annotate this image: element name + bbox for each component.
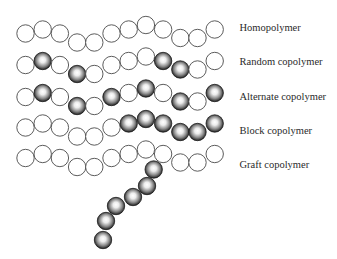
monomer-a-circle — [17, 119, 34, 136]
monomer-a-circle — [103, 149, 120, 166]
monomer-a-circle — [86, 65, 103, 82]
monomer-a-circle — [154, 145, 171, 162]
monomer-a-circle — [68, 34, 85, 51]
monomer-a-circle — [103, 56, 120, 73]
monomer-b-sphere — [120, 115, 137, 132]
monomer-b-sphere — [154, 115, 171, 132]
monomer-b-sphere — [34, 84, 51, 101]
monomer-b-sphere — [172, 93, 189, 110]
monomer-a-circle — [120, 145, 137, 162]
monomer-a-circle — [51, 25, 68, 42]
monomer-a-circle — [172, 29, 189, 46]
monomer-a-circle — [189, 154, 206, 171]
monomer-a-circle — [120, 84, 137, 101]
monomer-a-circle — [189, 93, 206, 110]
label-alternate-copolymer: Alternate copolymer — [240, 91, 327, 102]
polymer-chain-row — [17, 110, 224, 145]
monomer-b-sphere — [137, 110, 154, 127]
polymer-chain-row — [17, 80, 224, 115]
monomer-b-sphere — [206, 84, 223, 101]
graft-monomer-sphere — [94, 231, 111, 248]
monomer-a-circle — [34, 21, 51, 38]
label-graft-copolymer: Graft copolymer — [240, 159, 310, 170]
monomer-a-circle — [86, 158, 103, 175]
monomer-b-sphere — [137, 80, 154, 97]
monomer-a-circle — [120, 52, 137, 69]
monomer-a-circle — [137, 48, 154, 65]
monomer-a-circle — [17, 25, 34, 42]
row-labels: Homopolymer Random copolymer Alternate c… — [240, 22, 327, 170]
graft-monomer-sphere — [138, 177, 155, 194]
monomer-a-circle — [154, 21, 171, 38]
label-homopolymer: Homopolymer — [240, 22, 302, 33]
monomer-a-circle — [103, 119, 120, 136]
graft-monomer-sphere — [145, 161, 162, 178]
monomer-a-circle — [17, 149, 34, 166]
monomer-a-circle — [51, 119, 68, 136]
monomer-a-circle — [86, 34, 103, 51]
monomer-a-circle — [172, 154, 189, 171]
polymer-chain-row — [17, 141, 224, 176]
polymer-types-diagram: Homopolymer Random copolymer Alternate c… — [0, 0, 337, 259]
monomer-b-sphere — [172, 61, 189, 78]
monomer-b-sphere — [68, 65, 85, 82]
monomer-a-circle — [189, 61, 206, 78]
monomer-a-circle — [189, 29, 206, 46]
monomer-a-circle — [206, 52, 223, 69]
monomer-a-circle — [68, 158, 85, 175]
graft-monomer-sphere — [97, 212, 114, 229]
monomer-b-sphere — [189, 123, 206, 140]
monomer-a-circle — [206, 145, 223, 162]
monomer-b-sphere — [68, 97, 85, 114]
graft-branch — [94, 161, 162, 249]
polymer-chain-row — [17, 48, 224, 83]
polymer-chain-row — [17, 16, 224, 51]
monomer-a-circle — [68, 128, 85, 145]
label-block-copolymer: Block copolymer — [240, 125, 313, 136]
monomer-b-sphere — [103, 88, 120, 105]
monomer-b-sphere — [154, 52, 171, 69]
monomer-a-circle — [86, 128, 103, 145]
graft-monomer-sphere — [107, 197, 124, 214]
graft-monomer-sphere — [124, 188, 141, 205]
monomer-b-sphere — [34, 52, 51, 69]
monomer-a-circle — [137, 16, 154, 33]
monomer-a-circle — [137, 141, 154, 158]
monomer-a-circle — [51, 56, 68, 73]
monomer-a-circle — [34, 145, 51, 162]
monomer-a-circle — [17, 56, 34, 73]
monomer-a-circle — [34, 115, 51, 132]
monomer-a-circle — [51, 88, 68, 105]
polymer-chains — [17, 16, 224, 175]
label-random-copolymer: Random copolymer — [240, 56, 324, 67]
monomer-b-sphere — [206, 115, 223, 132]
monomer-b-sphere — [172, 123, 189, 140]
monomer-a-circle — [154, 84, 171, 101]
monomer-a-circle — [120, 21, 137, 38]
monomer-a-circle — [17, 88, 34, 105]
monomer-a-circle — [103, 25, 120, 42]
monomer-a-circle — [51, 149, 68, 166]
monomer-a-circle — [86, 97, 103, 114]
monomer-a-circle — [206, 21, 223, 38]
